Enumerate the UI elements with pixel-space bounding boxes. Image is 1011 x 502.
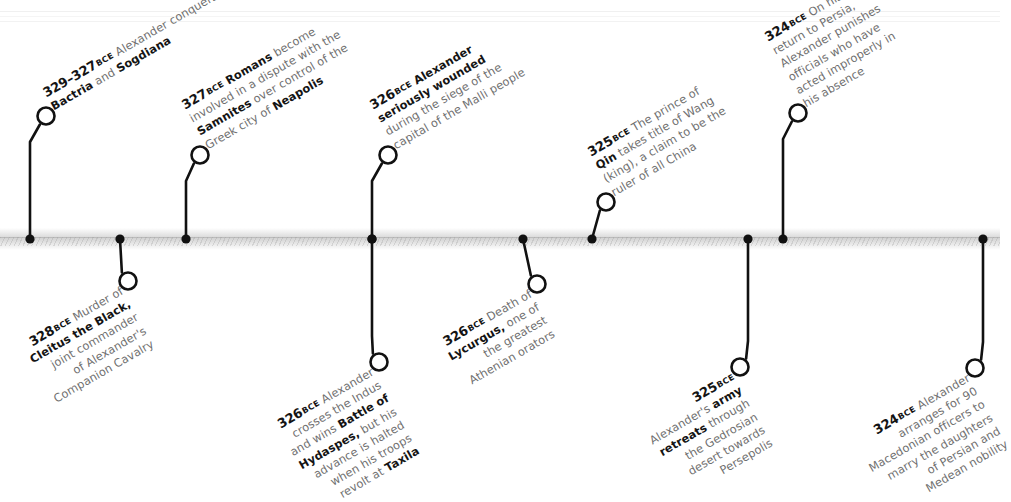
timeline-event-e4 — [367, 234, 387, 370]
timeline-event-e10 — [967, 234, 988, 376]
event-node-e7[interactable] — [598, 194, 615, 211]
timeline-event-e8 — [732, 234, 753, 375]
connector-line-e9 — [783, 122, 792, 240]
event-node-e10[interactable] — [967, 360, 984, 377]
event-node-e2[interactable] — [120, 273, 137, 290]
event-node-e6[interactable] — [529, 276, 546, 293]
connector-line-e4 — [372, 239, 373, 354]
connector-line-e6 — [523, 239, 531, 276]
connector-line-e2 — [120, 239, 122, 273]
timeline-event-e6 — [518, 234, 545, 292]
event-node-e8[interactable] — [732, 359, 749, 376]
connector-line-e8 — [746, 239, 748, 359]
event-node-e5[interactable] — [380, 147, 397, 164]
timeline-event-e1 — [25, 108, 54, 244]
connector-line-e1 — [30, 125, 40, 240]
timeline-event-e5 — [367, 147, 396, 244]
timeline-event-e9 — [778, 105, 806, 244]
timeline-event-e7 — [587, 194, 614, 244]
connector-line-e3 — [186, 164, 194, 240]
timeline-event-e3 — [181, 147, 208, 244]
event-node-e3[interactable] — [192, 147, 209, 164]
connector-line-e10 — [981, 239, 983, 360]
connector-line-e7 — [592, 211, 600, 240]
event-node-e4[interactable] — [371, 354, 388, 371]
connector-line-e5 — [372, 164, 382, 240]
event-node-e9[interactable] — [790, 105, 807, 122]
event-node-e1[interactable] — [38, 108, 55, 125]
timeline-event-e2 — [115, 234, 136, 289]
